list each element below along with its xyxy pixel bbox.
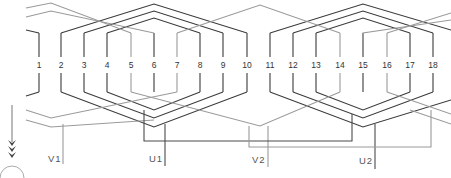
slot-label-13: 13 <box>311 60 321 70</box>
slot-label-2: 2 <box>59 60 64 70</box>
winding-diagram: 1 2 3 4 5 6 7 8 9 10 11 12 13 14 15 16 1… <box>0 0 451 178</box>
circle-symbol-icon <box>0 166 24 178</box>
terminal-label-v2: V2 <box>252 154 266 165</box>
terminal-label-u2: U2 <box>359 155 373 166</box>
slot-label-4: 4 <box>105 60 110 70</box>
slot-label-8: 8 <box>198 60 203 70</box>
slot-label-5: 5 <box>129 60 134 70</box>
slot-label-11: 11 <box>266 60 275 70</box>
slot-labels: 1 2 3 4 5 6 7 8 9 10 11 12 13 14 15 16 1… <box>37 60 438 70</box>
terminal-labels: V1 U1 V2 U2 <box>48 153 373 166</box>
slot-label-18: 18 <box>428 60 438 70</box>
slot-label-12: 12 <box>288 60 298 70</box>
direction-arrow-icon <box>8 105 16 158</box>
slot-label-15: 15 <box>358 60 368 70</box>
slot-label-9: 9 <box>221 60 226 70</box>
slot-label-17: 17 <box>405 60 415 70</box>
slot-label-1: 1 <box>37 60 42 70</box>
slot-label-7: 7 <box>175 60 180 70</box>
terminal-label-v1: V1 <box>48 153 62 164</box>
slot-label-14: 14 <box>335 60 345 70</box>
lower-end-connections <box>26 92 451 127</box>
slot-label-3: 3 <box>82 60 87 70</box>
terminal-label-u1: U1 <box>149 153 163 164</box>
slot-label-10: 10 <box>242 60 252 70</box>
slot-label-6: 6 <box>152 60 157 70</box>
slot-conductors <box>39 33 433 92</box>
slot-label-16: 16 <box>382 60 392 70</box>
terminal-leads <box>63 110 431 169</box>
